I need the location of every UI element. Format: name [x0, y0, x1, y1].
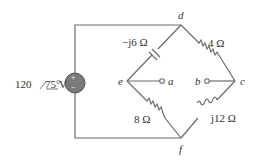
- wire-cap-e: [127, 55, 152, 81]
- circuit-diagram: [0, 0, 257, 165]
- capacitor-icon: [149, 49, 160, 60]
- inductor-label: j12 Ω: [211, 113, 236, 124]
- wire-top: [75, 25, 181, 73]
- terminal-b: [205, 79, 210, 84]
- wire-d-cap: [158, 25, 181, 49]
- resistor-4-label: 4 Ω: [208, 38, 224, 49]
- resistor-8-icon: [127, 81, 181, 138]
- node-e-label: e: [118, 76, 123, 87]
- capacitor-label: −j6 Ω: [122, 37, 148, 48]
- inductor-icon: [197, 97, 217, 104]
- source-magnitude: 120: [15, 79, 32, 90]
- node-a-label: a: [168, 76, 174, 87]
- resistor-8-label: 8 Ω: [134, 114, 150, 125]
- wire-bottom: [75, 93, 181, 138]
- node-f-label: f: [179, 144, 182, 155]
- source-plus: +: [71, 74, 76, 82]
- terminal-a: [160, 79, 165, 84]
- resistor-4-icon: [181, 25, 235, 81]
- wire-c-ind: [217, 81, 235, 100]
- node-c-label: c: [240, 76, 245, 87]
- wire-ind-f: [181, 118, 198, 138]
- source-unit: V: [59, 79, 67, 90]
- node-d-label: d: [178, 10, 184, 21]
- source-minus: −: [71, 84, 76, 92]
- node-b-label: b: [195, 76, 201, 87]
